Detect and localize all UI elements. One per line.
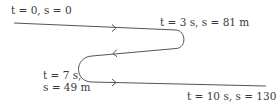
label-start: t = 0, s = 0 <box>11 4 72 16</box>
label-second-turn-time: t = 7 s, <box>43 69 81 81</box>
motion-diagram: t = 0, s = 0 t = 3 s, s = 81 m t = 7 s, … <box>0 0 278 106</box>
arrow-right-icon-top <box>112 25 116 32</box>
arrow-left-icon-middle <box>113 50 117 57</box>
label-second-turn-position: s = 49 m <box>43 81 91 93</box>
label-first-turn: t = 3 s, s = 81 m <box>160 16 249 28</box>
label-end: t = 10 s, s = 130 m <box>187 90 278 102</box>
